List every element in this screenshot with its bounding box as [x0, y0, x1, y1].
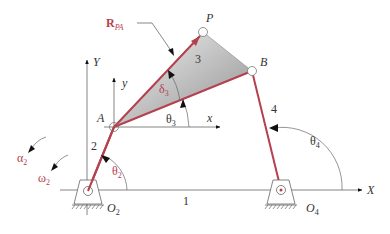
alpha2-arrowhead-icon [28, 145, 35, 153]
rpa-leader-arrowhead-icon [168, 48, 174, 56]
label-theta4: θ4 [310, 134, 320, 150]
fourbar-diagram: RPA P B A O2 O4 1 2 3 4 Y X y x δ3 θ3 θ2… [0, 0, 390, 234]
label-link-4: 4 [271, 102, 277, 116]
label-theta3: θ3 [166, 112, 176, 128]
theta4-arrowhead-icon [269, 124, 278, 132]
rpa-leader-line [137, 23, 172, 52]
label-local-x: x [206, 111, 213, 125]
label-rpa: RPA [106, 16, 124, 32]
label-p: P [205, 11, 214, 25]
label-theta2: θ2 [112, 164, 122, 180]
label-b: B [260, 55, 268, 69]
label-alpha2: α2 [17, 151, 27, 167]
pin-b [248, 67, 257, 76]
label-o2: O2 [107, 201, 120, 217]
label-o4: O4 [306, 201, 319, 217]
label-global-y: Y [93, 55, 101, 69]
label-global-x: X [366, 183, 375, 197]
label-omega2: ω2 [38, 171, 50, 187]
alpha2-arc [32, 137, 46, 148]
label-link-3: 3 [195, 52, 201, 66]
omega2-arrowhead-icon [51, 163, 58, 171]
pin-p [199, 28, 208, 37]
label-local-y: y [121, 76, 128, 90]
label-link-1: 1 [183, 194, 189, 208]
label-link-2: 2 [91, 139, 97, 153]
label-a: A [96, 111, 105, 125]
ground-pivot-o4 [265, 180, 297, 209]
omega2-arc [55, 155, 68, 166]
